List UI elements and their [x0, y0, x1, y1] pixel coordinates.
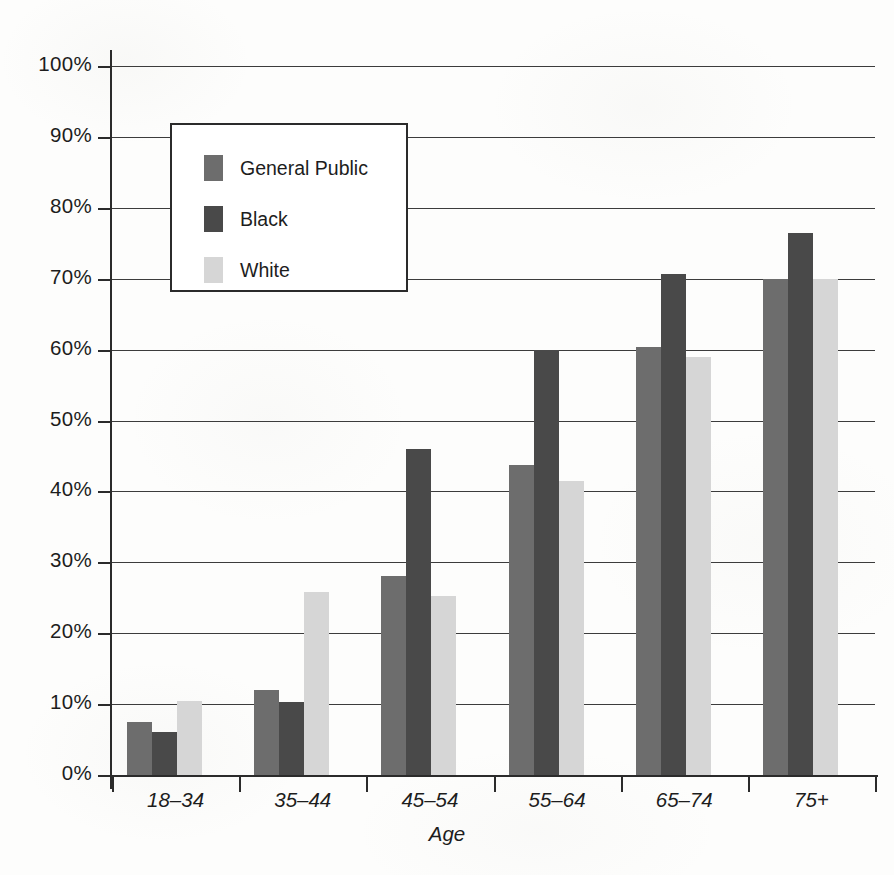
x-axis-category-label: 65–74 [656, 788, 713, 812]
bar [534, 350, 559, 775]
bar [254, 690, 279, 775]
x-axis-category-label: 18–34 [147, 788, 204, 812]
chart-legend: General PublicBlackWhite [170, 123, 408, 292]
bar [559, 481, 584, 775]
y-tick-mark-80 [98, 208, 111, 210]
legend-label: White [240, 259, 290, 282]
legend-swatch-icon [204, 155, 223, 181]
x-tick-mark [621, 775, 623, 792]
bar [381, 576, 406, 775]
x-tick-mark [366, 775, 368, 792]
y-tick-label: 0% [12, 761, 92, 785]
y-axis-line [110, 50, 112, 789]
bar [763, 279, 788, 775]
gridline-100 [112, 66, 875, 67]
bar [431, 596, 456, 775]
legend-item: White [204, 257, 290, 283]
bar [788, 233, 813, 775]
y-tick-mark-20 [98, 633, 111, 635]
gridline-10 [112, 704, 875, 705]
bar [152, 732, 177, 775]
y-tick-label: 80% [12, 194, 92, 218]
bar [661, 274, 686, 775]
bar [813, 279, 838, 775]
y-tick-label: 40% [12, 477, 92, 501]
x-tick-mark [494, 775, 496, 792]
gridline-20 [112, 633, 875, 634]
y-tick-mark-60 [98, 350, 111, 352]
legend-item: General Public [204, 155, 368, 181]
x-tick-mark [748, 775, 750, 792]
bar [127, 722, 152, 775]
bar [636, 347, 661, 775]
y-tick-label: 30% [12, 548, 92, 572]
gridline-50 [112, 421, 875, 422]
x-tick-mark [239, 775, 241, 792]
legend-item: Black [204, 206, 288, 232]
y-tick-mark-30 [98, 562, 111, 564]
legend-label: General Public [240, 157, 368, 180]
bar [279, 702, 304, 775]
bar [406, 449, 431, 775]
y-tick-mark-50 [98, 421, 111, 423]
y-tick-label: 10% [12, 690, 92, 714]
y-tick-label: 100% [12, 52, 92, 76]
gridline-30 [112, 562, 875, 563]
y-tick-mark-90 [98, 137, 111, 139]
bar [304, 592, 329, 775]
y-tick-label: 60% [12, 336, 92, 360]
x-axis-category-label: 75+ [794, 788, 829, 812]
x-axis-category-label: 45–54 [401, 788, 458, 812]
y-tick-mark-0 [98, 775, 111, 777]
y-tick-mark-70 [98, 279, 111, 281]
gridline-40 [112, 491, 875, 492]
y-tick-label: 90% [12, 123, 92, 147]
bar [509, 465, 534, 775]
gridline-60 [112, 350, 875, 351]
x-axis-category-label: 35–44 [274, 788, 331, 812]
y-tick-label: 50% [12, 407, 92, 431]
x-axis-category-label: 55–64 [529, 788, 586, 812]
bar [177, 701, 202, 775]
y-tick-label: 70% [12, 265, 92, 289]
y-tick-label: 20% [12, 619, 92, 643]
legend-label: Black [240, 208, 288, 231]
y-tick-mark-10 [98, 704, 111, 706]
legend-swatch-icon [204, 206, 223, 232]
legend-swatch-icon [204, 257, 223, 283]
x-tick-mark [875, 775, 877, 792]
chart-page: 0%10%20%30%40%50%60%70%80%90%100% 18–343… [0, 0, 894, 875]
x-axis-title: Age [0, 822, 894, 846]
y-tick-mark-100 [98, 66, 111, 68]
x-tick-mark [112, 775, 114, 792]
y-tick-mark-40 [98, 491, 111, 493]
bar [686, 357, 711, 775]
